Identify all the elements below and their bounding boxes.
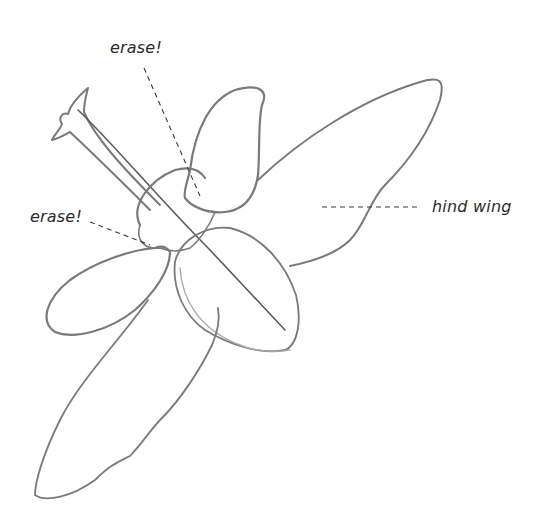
label-erase-left: erase!	[30, 207, 82, 226]
hind-wing-lower	[35, 300, 219, 498]
butterfly-sketch	[0, 0, 540, 517]
sketch-canvas: erase! erase! hind wing	[0, 0, 540, 517]
antenna	[52, 88, 285, 330]
leader-erase-top	[144, 68, 200, 196]
hind-wing	[258, 79, 442, 266]
label-erase-top: erase!	[110, 38, 162, 57]
label-hind-wing: hind wing	[432, 197, 512, 216]
forewing-upper	[185, 87, 265, 212]
forewing-lower	[47, 247, 170, 335]
